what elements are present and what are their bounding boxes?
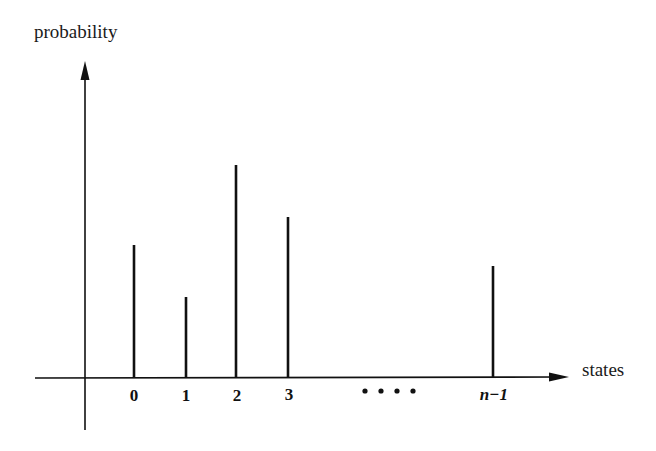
tick-label-3: 3: [285, 385, 294, 404]
tick-label-1: 1: [182, 386, 191, 405]
y-axis-arrowhead-icon: [81, 61, 90, 80]
probability-distribution-diagram: probability states 0 1 2 3 n−1: [0, 0, 656, 451]
x-axis-label: states: [582, 359, 624, 380]
x-axis-arrowhead-icon: [549, 373, 569, 382]
tick-label-0: 0: [130, 386, 139, 405]
tick-label-n-minus-1: n−1: [480, 385, 508, 404]
tick-label-n-minus-1-text: n−1: [480, 385, 508, 404]
ellipsis-dots-icon: [362, 388, 415, 393]
x-axis-line: [35, 377, 556, 378]
tick-label-2: 2: [233, 386, 242, 405]
y-axis-label: probability: [34, 21, 118, 42]
